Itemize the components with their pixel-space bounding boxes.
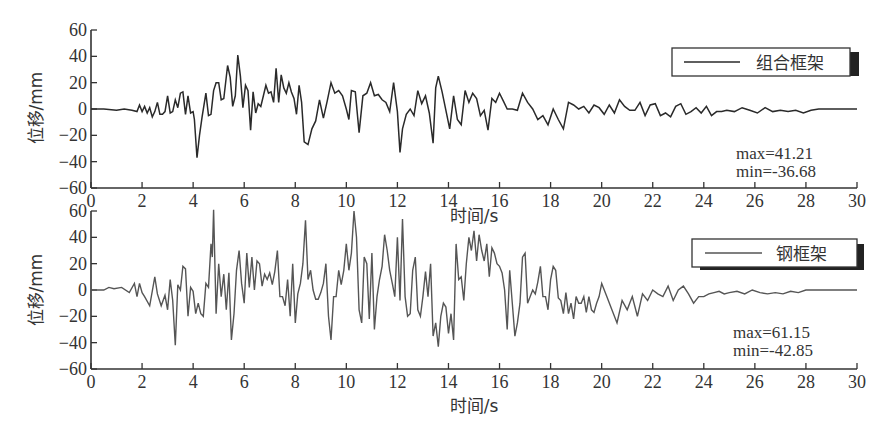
x-tick-label: 30 (848, 372, 866, 392)
y-tick-label: 40 (69, 46, 87, 66)
y-tick-label: −40 (59, 333, 87, 353)
x-tick-label: 6 (240, 372, 249, 392)
y-tick-label: −20 (59, 306, 87, 326)
stat-min: min=-36.68 (736, 162, 816, 181)
x-tick-label: 12 (388, 372, 406, 392)
x-tick-label: 30 (848, 191, 866, 211)
x-tick-label: 18 (542, 191, 560, 211)
x-tick-label: 6 (240, 191, 249, 211)
y-tick-label: −20 (59, 125, 87, 145)
panel-composite-frame: 6040200−20−40−60024681012141618202224262… (26, 20, 866, 226)
x-tick-label: 26 (746, 191, 764, 211)
x-tick-label: 4 (189, 191, 198, 211)
x-tick-label: 22 (644, 372, 662, 392)
x-tick-label: 4 (189, 372, 198, 392)
legend-box: 钢框架 (692, 239, 864, 270)
y-tick-label: 60 (69, 20, 87, 40)
y-axis-label: 位移/mm (26, 72, 46, 145)
panel-steel-frame: 6040200−20−40−60024681012141618202224262… (26, 201, 866, 416)
x-tick-label: 20 (593, 372, 611, 392)
x-tick-label: 0 (87, 191, 96, 211)
y-tick-label: −60 (59, 178, 87, 198)
y-tick-label: 20 (69, 254, 87, 274)
legend-box: 组合框架 (672, 48, 859, 76)
x-axis-label: 时间/s (450, 396, 499, 416)
y-tick-label: 40 (69, 227, 87, 247)
stat-max: max=41.21 (736, 144, 813, 163)
x-tick-label: 26 (746, 372, 764, 392)
y-tick-label: 20 (69, 73, 87, 93)
figure: 6040200−20−40−60024681012141618202224262… (0, 0, 881, 438)
y-tick-label: 0 (78, 99, 87, 119)
legend-label: 组合框架 (756, 53, 824, 73)
x-tick-label: 10 (337, 191, 355, 211)
x-tick-label: 24 (695, 191, 713, 211)
x-tick-label: 8 (291, 372, 300, 392)
x-tick-label: 10 (337, 372, 355, 392)
axes: 6040200−20−40−60024681012141618202224262… (59, 201, 866, 392)
x-tick-label: 14 (439, 372, 457, 392)
x-tick-label: 24 (695, 372, 713, 392)
x-tick-label: 2 (138, 191, 147, 211)
y-tick-label: 0 (78, 280, 87, 300)
x-tick-label: 12 (388, 191, 406, 211)
x-tick-label: 28 (797, 372, 815, 392)
x-tick-label: 18 (542, 372, 560, 392)
x-tick-label: 22 (644, 191, 662, 211)
y-tick-label: −40 (59, 152, 87, 172)
x-tick-label: 20 (593, 191, 611, 211)
y-tick-label: −60 (59, 359, 87, 379)
stat-min: min=-42.85 (733, 341, 813, 360)
stat-max: max=61.15 (733, 323, 810, 342)
x-tick-label: 2 (138, 372, 147, 392)
x-tick-label: 28 (797, 191, 815, 211)
y-tick-label: 60 (69, 201, 87, 221)
y-axis-label: 位移/mm (26, 254, 46, 327)
x-tick-label: 16 (491, 372, 509, 392)
x-axis-label: 时间/s (450, 206, 499, 226)
x-tick-label: 8 (291, 191, 300, 211)
legend-label: 钢框架 (776, 244, 827, 264)
x-tick-label: 0 (87, 372, 96, 392)
